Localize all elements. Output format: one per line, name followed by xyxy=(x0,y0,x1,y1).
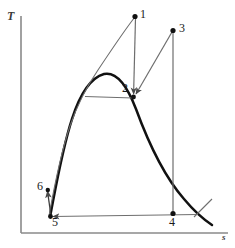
entropy-axis-label: s xyxy=(222,232,226,242)
state-point-1-marker xyxy=(132,14,137,19)
state-point-markers xyxy=(46,14,176,219)
temperature-axis-label: T xyxy=(7,9,14,24)
state-label-3: 3 xyxy=(179,22,185,34)
state-label-1: 1 xyxy=(140,8,146,20)
process-1-to-2-line xyxy=(134,18,136,94)
state-point-3-marker xyxy=(170,28,175,33)
crossing-tick-line xyxy=(194,199,212,217)
state-label-6: 6 xyxy=(37,180,43,192)
state-point-6-marker xyxy=(46,188,50,192)
isobar-at-state-2-line xyxy=(85,97,133,99)
process-4-to-5-line xyxy=(53,215,198,217)
ts-diagram-figure: T s 1 2 3 4 5 6 xyxy=(0,0,235,248)
state-label-4: 4 xyxy=(169,216,175,228)
state-label-2: 2 xyxy=(122,82,128,94)
saturation-dome-curve xyxy=(50,74,212,225)
process-6-to-1-curve xyxy=(49,17,135,216)
state-label-5: 5 xyxy=(52,216,58,228)
process-2-to-3-line xyxy=(136,32,172,94)
ts-diagram-canvas xyxy=(0,0,235,248)
state-point-2-marker xyxy=(131,95,136,100)
